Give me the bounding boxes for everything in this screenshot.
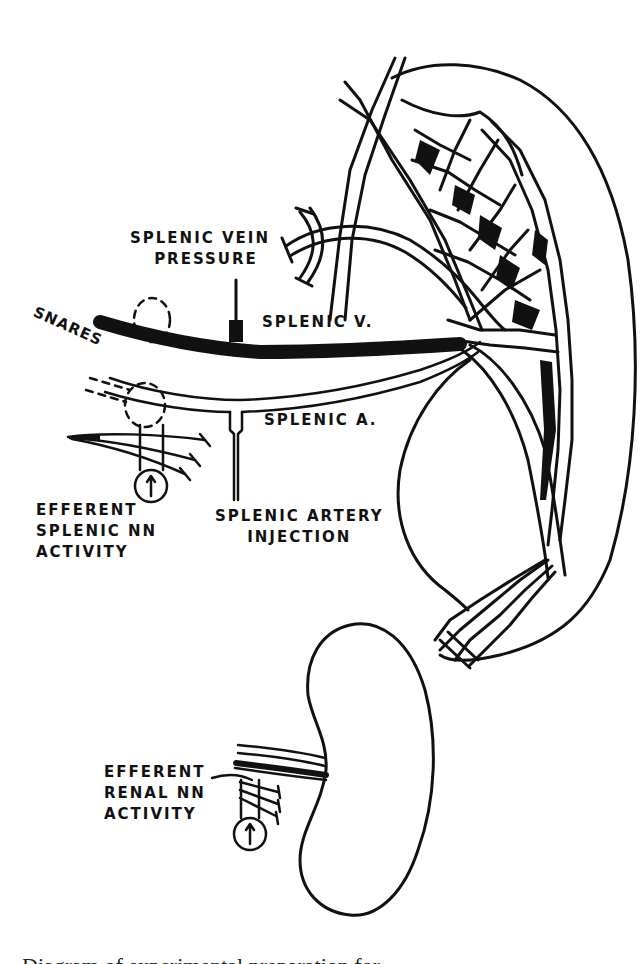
kidney-outline — [300, 624, 433, 915]
label-splenic-vein-pressure: SPLENIC VEIN PRESSURE — [130, 228, 270, 270]
label-line: INJECTION — [215, 527, 384, 548]
label-line: EFFERENT — [104, 762, 206, 783]
splenic-meter-arrow-icon — [147, 476, 155, 496]
splenic-nerve-bundle — [68, 425, 210, 480]
label-splenic-vein: SPLENIC V. — [262, 312, 373, 333]
label-line: ACTIVITY — [104, 804, 206, 825]
renal-nerve-bundle — [212, 745, 326, 824]
figure-caption: Diagram of experimental preparation for.… — [22, 952, 395, 964]
spleen-hilum-inner — [398, 360, 470, 610]
label-line: ACTIVITY — [36, 542, 157, 563]
label-line: PRESSURE — [130, 249, 270, 270]
splenic-vascular-tree — [330, 58, 572, 545]
label-line: SPLENIC NN — [36, 521, 157, 542]
label-efferent-renal-activity: EFFERENT RENAL NN ACTIVITY — [104, 762, 206, 825]
label-line: RENAL NN — [104, 783, 206, 804]
vein-pressure-hub — [229, 320, 243, 342]
label-splenic-artery: SPLENIC A. — [264, 410, 378, 431]
label-efferent-splenic-activity: EFFERENT SPLENIC NN ACTIVITY — [36, 500, 157, 563]
splenic-tree-fills — [415, 140, 556, 500]
label-splenic-artery-injection: SPLENIC ARTERY INJECTION — [215, 506, 384, 548]
label-line: SPLENIC VEIN — [130, 228, 270, 249]
artery-injection-cannula — [230, 412, 242, 500]
diagram-canvas: SPLENIC VEIN PRESSURE SPLENIC V. SPLENIC… — [0, 0, 640, 964]
renal-meter-arrow-icon — [246, 824, 254, 844]
anatomy-drawing — [0, 0, 640, 964]
label-line: SPLENIC ARTERY — [215, 506, 384, 527]
label-line: EFFERENT — [36, 500, 157, 521]
